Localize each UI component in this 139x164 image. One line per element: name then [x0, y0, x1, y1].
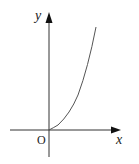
- function-graph: y O x: [0, 0, 139, 164]
- function-curve: [49, 27, 96, 130]
- y-axis-arrow-icon: [46, 12, 53, 23]
- y-axis-label: y: [33, 8, 42, 23]
- x-axis-label: x: [115, 132, 123, 147]
- origin-label: O: [37, 133, 46, 147]
